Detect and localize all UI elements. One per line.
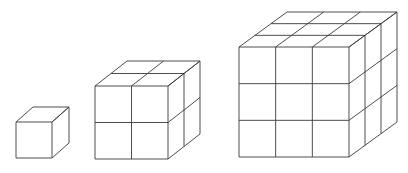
cube-1x1x1 (16, 107, 69, 158)
cube-2x2x2 (95, 61, 200, 159)
cube-diagram (0, 0, 408, 173)
cubes-canvas (0, 0, 408, 173)
cube-3x3x3 (239, 12, 397, 157)
